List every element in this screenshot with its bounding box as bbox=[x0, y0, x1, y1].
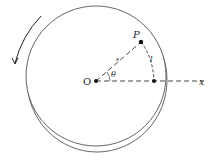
arc-length-label: s bbox=[116, 55, 119, 62]
origin-label: O bbox=[83, 76, 91, 87]
x-axis-label: x bbox=[199, 77, 204, 87]
point-p-label: P bbox=[132, 29, 140, 40]
disk-rim bbox=[26, 6, 166, 146]
point-p-dot bbox=[139, 40, 143, 44]
chord-label: l bbox=[150, 55, 153, 64]
axis-point-dot bbox=[152, 79, 156, 83]
angle-label: θ bbox=[111, 70, 116, 79]
arrow-head-icon bbox=[12, 58, 18, 64]
rotating-disk-diagram: O P s l θ x bbox=[0, 0, 218, 164]
origin-dot bbox=[94, 79, 98, 83]
